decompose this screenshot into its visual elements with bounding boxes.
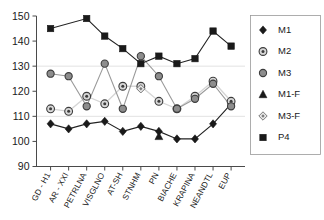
data-point-circle-filled: [101, 60, 108, 67]
data-point-diamond: [137, 122, 144, 130]
data-point-square: [138, 60, 144, 66]
data-point-small-diamond: [259, 112, 267, 120]
data-point-circle-dot: [101, 100, 109, 108]
line-chart: 15014013012011010090 GD - H1AR - XXIPETR…: [0, 0, 324, 220]
y-tick-label: 120: [12, 85, 30, 97]
data-point-circle-dot: [259, 48, 267, 56]
data-point-circle-filled: [173, 105, 180, 112]
legend-label-M3-F: M3-F: [278, 110, 300, 121]
data-point-circle-filled: [137, 53, 144, 60]
data-point-circle-dot: [47, 105, 55, 113]
data-point-diamond: [173, 135, 180, 143]
legend-label-M3: M3: [278, 67, 291, 78]
data-point-diamond: [119, 127, 126, 135]
data-point-square: [83, 15, 89, 21]
x-tick-label: AT-SH: [105, 171, 124, 196]
data-point-circle-filled: [228, 103, 235, 110]
data-point-diamond: [191, 135, 198, 143]
data-point-square: [228, 43, 234, 49]
data-point-circle-filled: [47, 70, 54, 77]
y-tick-label: 110: [13, 110, 30, 122]
data-point-diamond: [260, 26, 267, 34]
data-point-circle-filled: [83, 103, 90, 110]
data-point-square: [210, 28, 216, 34]
data-point-circle-filled: [209, 80, 216, 87]
y-tick-label: 130: [12, 60, 30, 72]
data-point-circle-filled: [155, 73, 162, 80]
legend: M1M2M3M1-FM3-FP4: [251, 16, 321, 155]
series-points: [47, 15, 235, 143]
data-point-diamond: [65, 125, 72, 133]
legend-label-P4: P4: [278, 131, 290, 142]
data-point-square: [47, 25, 53, 31]
series-lines: [51, 19, 232, 139]
data-point-circle-dot: [83, 92, 91, 100]
data-point-square: [102, 33, 108, 39]
data-point-circle-dot: [65, 107, 73, 115]
x-tick-label: EUP: [217, 171, 233, 191]
series-line-M1: [51, 104, 232, 139]
y-axis: 15014013012011010090: [12, 10, 37, 173]
data-point-circle-dot: [119, 82, 127, 90]
data-point-square: [156, 53, 162, 59]
data-point-square: [174, 60, 180, 66]
x-tick-labels: GD - H1AR - XXIPETRLNAVISGLNOAT-SHSTNHMP…: [30, 171, 233, 210]
legend-label-M1: M1: [278, 24, 291, 35]
y-tick-label: 90: [18, 160, 30, 172]
data-point-circle-filled: [65, 73, 72, 80]
data-point-diamond: [101, 117, 108, 125]
y-tick-label: 140: [12, 35, 30, 47]
data-point-diamond: [83, 120, 90, 128]
data-point-square: [192, 55, 198, 61]
legend-label-M1-F: M1-F: [278, 88, 300, 99]
x-tick-label: PN: [147, 171, 160, 185]
data-point-circle-filled: [119, 105, 126, 112]
data-point-circle-filled: [191, 95, 198, 102]
data-point-diamond: [47, 120, 54, 128]
data-point-triangle: [259, 90, 267, 97]
y-tick-label: 150: [12, 10, 30, 22]
data-point-circle-dot: [155, 97, 163, 105]
data-point-circle-filled: [259, 69, 266, 76]
x-axis: [37, 167, 246, 171]
legend-label-M2: M2: [278, 45, 291, 56]
data-point-square: [260, 134, 266, 140]
data-point-triangle: [155, 132, 163, 139]
data-point-square: [120, 45, 126, 51]
chart-svg: 15014013012011010090 GD - H1AR - XXIPETR…: [0, 0, 324, 220]
y-tick-label: 100: [12, 135, 30, 147]
